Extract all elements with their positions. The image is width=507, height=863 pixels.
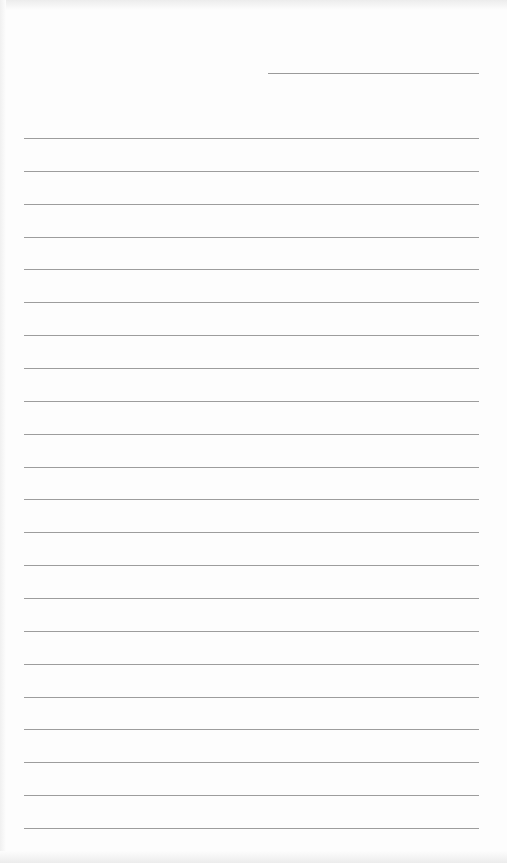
ruled-line bbox=[24, 664, 479, 665]
ruled-line bbox=[24, 204, 479, 205]
scan-shadow-top bbox=[0, 0, 507, 10]
ruled-line bbox=[24, 762, 479, 763]
date-line bbox=[268, 73, 479, 74]
scan-shadow-left bbox=[0, 0, 6, 863]
ruled-line bbox=[24, 171, 479, 172]
ruled-line bbox=[24, 499, 479, 500]
ruled-line bbox=[24, 565, 479, 566]
ruled-line bbox=[24, 467, 479, 468]
ruled-line bbox=[24, 631, 479, 632]
ruled-line bbox=[24, 335, 479, 336]
ruled-line bbox=[24, 598, 479, 599]
ruled-line bbox=[24, 434, 479, 435]
ruled-line bbox=[24, 401, 479, 402]
scan-shadow-bottom bbox=[0, 851, 507, 863]
ruled-line bbox=[24, 729, 479, 730]
ruled-line bbox=[24, 237, 479, 238]
ruled-line bbox=[24, 269, 479, 270]
ruled-line bbox=[24, 532, 479, 533]
ruled-line bbox=[24, 368, 479, 369]
ruled-line bbox=[24, 302, 479, 303]
ruled-line bbox=[24, 138, 479, 139]
ruled-line bbox=[24, 795, 479, 796]
ruled-line bbox=[24, 697, 479, 698]
ruled-line bbox=[24, 828, 479, 829]
